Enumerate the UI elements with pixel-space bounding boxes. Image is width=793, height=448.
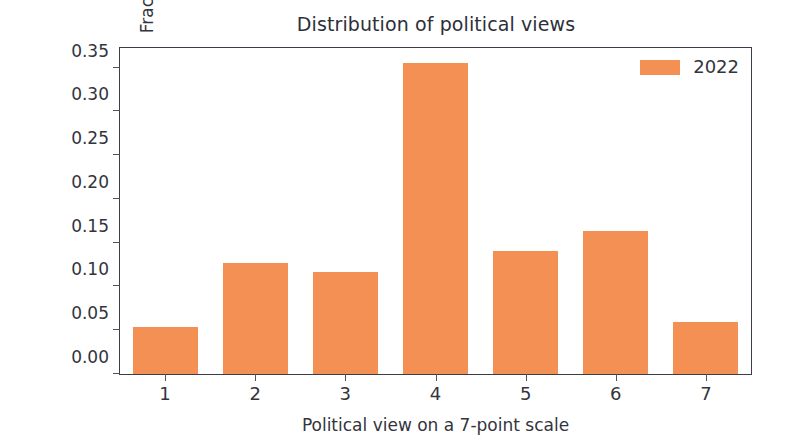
y-tick-label: 0.15 (71, 217, 109, 234)
y-tick-label: 0.25 (71, 130, 109, 147)
chart-legend: 2022 (640, 58, 739, 76)
x-tick-mark (616, 374, 617, 381)
y-tick-label: 0.00 (71, 349, 109, 366)
bar-5 (493, 251, 558, 374)
legend-entry[interactable]: 2022 (640, 58, 739, 76)
legend-color-swatch (640, 60, 680, 75)
bar-3 (313, 272, 378, 374)
bar-1 (133, 327, 198, 374)
plot-frame: 0.000.050.100.150.200.250.300.351234567 … (119, 47, 752, 375)
bar-4 (403, 63, 468, 374)
x-tick-mark (165, 374, 166, 381)
x-tick-label: 6 (610, 385, 621, 403)
y-tick-mark (113, 110, 120, 111)
x-axis-label: Political view on a 7-point scale (119, 415, 752, 435)
x-tick-mark (345, 374, 346, 381)
x-tick-label: 3 (340, 385, 351, 403)
y-tick-mark (113, 198, 120, 199)
x-tick-label: 7 (700, 385, 711, 403)
x-tick-label: 1 (159, 385, 170, 403)
x-tick-label: 4 (430, 385, 441, 403)
y-tick-mark (113, 329, 120, 330)
bar-2 (223, 263, 288, 374)
y-tick-label: 0.20 (71, 173, 109, 190)
x-tick-label: 5 (520, 385, 531, 403)
x-tick-mark (526, 374, 527, 381)
y-tick-mark (113, 242, 120, 243)
y-tick-label: 0.35 (71, 42, 109, 59)
legend-label: 2022 (693, 58, 739, 76)
bar-6 (583, 231, 648, 374)
x-tick-mark (436, 374, 437, 381)
y-tick-mark (113, 285, 120, 286)
x-tick-label: 2 (249, 385, 260, 403)
plot-area: 0.000.050.100.150.200.250.300.351234567 (120, 48, 751, 374)
y-tick-mark (113, 154, 120, 155)
x-tick-mark (706, 374, 707, 381)
y-tick-mark (113, 67, 120, 68)
y-tick-label: 0.05 (71, 305, 109, 322)
y-tick-label: 0.30 (71, 86, 109, 103)
chart-title: Distribution of political views (119, 12, 753, 36)
y-tick-label: 0.10 (71, 261, 109, 278)
bar-7 (673, 322, 738, 375)
y-axis-label: Fraction of respondents (138, 0, 157, 88)
y-tick-mark (113, 373, 120, 374)
chart-figure: Distribution of political views 0.000.05… (0, 0, 793, 448)
x-tick-mark (255, 374, 256, 381)
